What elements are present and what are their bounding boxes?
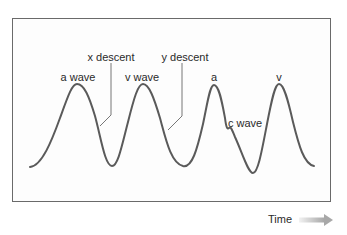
y-descent-label: y descent — [161, 51, 208, 63]
a-label: a — [211, 71, 217, 83]
pressure-waveform-curve — [30, 84, 314, 173]
v-label: v — [276, 71, 282, 83]
y-descent-leader-line — [168, 63, 182, 130]
waveform-plot — [0, 0, 347, 235]
x-descent-label: x descent — [87, 51, 134, 63]
time-axis-label: Time — [268, 213, 292, 225]
x-descent-leader-line — [100, 63, 111, 126]
a-wave-label: a wave — [61, 71, 96, 83]
c-wave-label: c wave — [228, 117, 262, 129]
v-wave-label: v wave — [125, 71, 159, 83]
right-arrow-icon — [299, 214, 333, 226]
